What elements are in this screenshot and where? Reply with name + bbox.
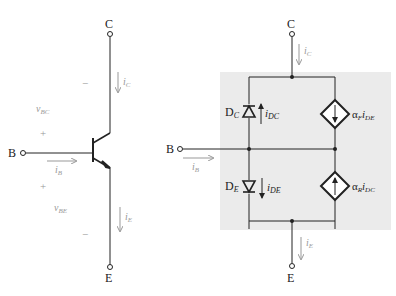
model-shaded-box	[220, 72, 391, 230]
vbc-minus: −	[82, 77, 88, 89]
svg-text:iB: iB	[55, 164, 63, 177]
collector-terminal	[108, 32, 113, 37]
diode-de-icon	[243, 180, 255, 194]
emitter-label-model: E	[287, 271, 294, 285]
vbe-label: vBE	[54, 202, 68, 215]
emitter-terminal	[108, 265, 113, 270]
svg-text:iB: iB	[192, 161, 200, 174]
vbc-label: vBC	[36, 103, 50, 116]
diode-dc-icon	[243, 104, 255, 118]
svg-text:iC: iC	[304, 45, 312, 58]
transistor-symbol	[21, 32, 113, 270]
collector-label: C	[105, 17, 113, 31]
vbc-plus: +	[40, 127, 46, 139]
junction-dot	[290, 219, 294, 223]
svg-text:iC: iC	[123, 76, 131, 89]
emitter-terminal-model	[290, 264, 295, 269]
circuit-diagram: C B E iC iB iE − vBC + + vBE −	[0, 0, 396, 296]
base-terminal-model	[178, 147, 183, 152]
base-label: B	[8, 146, 16, 160]
collector-terminal-model	[290, 32, 295, 37]
emitter-label: E	[105, 271, 112, 285]
base-label-model: B	[166, 142, 174, 156]
base-terminal	[21, 151, 26, 156]
junction-dot	[333, 147, 337, 151]
svg-text:iE: iE	[125, 211, 133, 224]
vbe-plus: +	[40, 180, 46, 192]
vbe-minus: −	[82, 228, 88, 240]
junction-dot	[290, 75, 294, 79]
svg-text:iE: iE	[306, 237, 314, 250]
junction-dot	[247, 147, 251, 151]
emitter-arrow-icon	[102, 161, 110, 168]
collector-label-model: C	[287, 17, 295, 31]
